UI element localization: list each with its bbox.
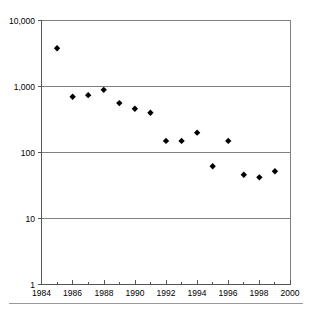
y-tick-label-100: 100: [21, 148, 35, 158]
chart-figure: 10,000 1,000 100 10 1: [0, 0, 310, 311]
x-tick-label-1992: 1992: [157, 288, 176, 298]
x-tick-label-1996: 1996: [219, 288, 238, 298]
chart-background: [0, 0, 310, 311]
y-tick-label-10: 10: [26, 214, 36, 224]
x-tick-label-1998: 1998: [250, 288, 269, 298]
x-tick-label-2000: 2000: [281, 288, 300, 298]
y-tick-label-10000: 10,000: [9, 16, 35, 26]
x-tick-label-1994: 1994: [188, 288, 207, 298]
scatter-plot: 10,000 1,000 100 10 1: [0, 0, 310, 311]
y-tick-label-1000: 1,000: [14, 82, 36, 92]
x-tick-label-1986: 1986: [63, 288, 82, 298]
x-axis-labels: 1984 1986 1988 1990 1992 1994 1996 1998 …: [32, 288, 300, 298]
x-tick-label-1988: 1988: [95, 288, 114, 298]
x-tick-label-1990: 1990: [126, 288, 145, 298]
x-tick-label-1984: 1984: [32, 288, 51, 298]
